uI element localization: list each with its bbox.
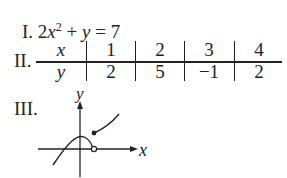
x-axis-label: x bbox=[139, 140, 147, 161]
table-y-value: 5 bbox=[135, 62, 185, 82]
open-circle-endpoint bbox=[91, 146, 96, 151]
closed-circle-endpoint bbox=[92, 131, 97, 136]
table-y-value: 2 bbox=[234, 62, 284, 82]
table-x-value: 4 bbox=[234, 40, 284, 60]
table-x-value: 2 bbox=[135, 40, 185, 60]
table-y-value: −1 bbox=[184, 62, 234, 82]
table-y-value: 2 bbox=[86, 62, 136, 82]
item-1-numeral: I. bbox=[22, 21, 33, 42]
function-graph bbox=[0, 85, 200, 178]
table-x-value: 3 bbox=[184, 40, 234, 60]
item-2-numeral: II. bbox=[14, 50, 31, 72]
table-x-value: 1 bbox=[86, 40, 136, 60]
curve-left-piece bbox=[53, 137, 93, 165]
x-axis-arrow-icon bbox=[130, 146, 138, 152]
xy-table: x 1 2 3 4 y 2 5 −1 2 bbox=[36, 40, 282, 82]
y-axis-label: y bbox=[76, 84, 84, 104]
table-x-header: x bbox=[36, 40, 86, 60]
table-y-header: y bbox=[36, 62, 86, 82]
curve-right-piece bbox=[94, 114, 119, 133]
